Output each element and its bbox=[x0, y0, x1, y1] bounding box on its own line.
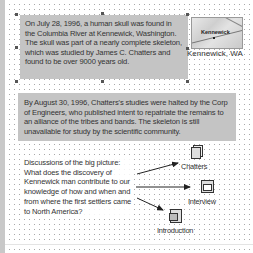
presentation-document-icon[interactable] bbox=[169, 209, 181, 222]
document-stack-icon[interactable] bbox=[191, 145, 203, 158]
link-arrows bbox=[0, 0, 253, 253]
link-interview[interactable]: Interview bbox=[188, 197, 216, 206]
link-chatters[interactable]: Chatters bbox=[181, 162, 207, 171]
link-introduction[interactable]: Introduction bbox=[157, 226, 193, 235]
window-document-icon[interactable] bbox=[201, 180, 213, 193]
